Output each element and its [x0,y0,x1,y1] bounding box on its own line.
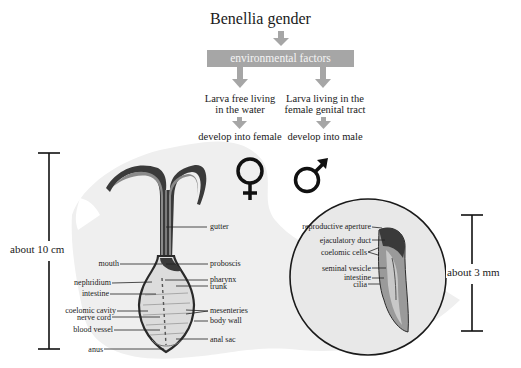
arrow-down-left-2 [232,117,247,129]
label-mesenteries: mesenteries [210,306,248,315]
label-cilia: cilia [300,280,367,289]
diagram-title: Benellia gender [0,10,521,28]
label-anus: anus [30,345,103,354]
label-anal-sac: anal sac [210,335,236,344]
male-symbol-icon [296,163,325,192]
label-gutter: gutter [210,222,229,231]
condition-right-line1: Larva living in the [270,93,380,104]
outcome-male: develop into male [275,131,375,142]
label-seminal-vesicle: seminal vesicle [290,264,371,273]
label-ejaculatory-duct: ejaculatory duct [290,236,371,245]
label-nephridium: nephridium [40,278,111,287]
label-nerve-cord: nerve cord [30,313,111,322]
arrow-down-right [315,67,331,88]
arrow-down-right-2 [316,117,331,129]
label-mouth: mouth [60,259,119,268]
arrow-down-top [273,31,289,46]
label-body-wall: body wall [210,316,242,325]
label-trunk: trunk [210,282,227,291]
condition-right-line2: female genital tract [270,104,380,115]
label-reproductive-aperture: reproductive aperture [280,222,371,231]
scale-label-3mm: about 3 mm [446,266,501,278]
arrow-down-left [232,67,248,88]
label-proboscis: proboscis [210,259,241,268]
label-coelomic-cells: coelomic cells [290,248,367,257]
label-blood-vessel: blood vessel [30,325,113,334]
scale-label-10cm: about 10 cm [9,243,65,255]
label-intestine: intestine [40,289,109,298]
environmental-factors-box: environmental factors [207,50,354,67]
